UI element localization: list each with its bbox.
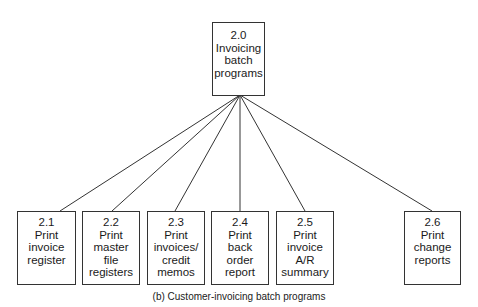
node-label-line: batch <box>213 54 264 67</box>
node-label-line: 2.1 <box>18 216 75 229</box>
node-label-line: report <box>212 266 268 279</box>
node-label-line: change <box>405 241 460 254</box>
node-label-line: Print <box>83 229 139 242</box>
node-label-line: A/R <box>277 254 333 267</box>
node-2-4-print-back-order-report: 2.4 Print back order report <box>211 211 269 285</box>
node-2-2-print-master-file-registers: 2.2 Print master file registers <box>82 211 140 285</box>
node-label-line: memos <box>148 266 204 279</box>
node-2-3-print-invoices-credit-memos: 2.3 Print invoices/ credit memos <box>147 211 205 285</box>
node-label-line: summary <box>277 266 333 279</box>
node-label-line: invoices/ <box>148 241 204 254</box>
node-label-line: 2.5 <box>277 216 333 229</box>
node-label-line: file <box>83 254 139 267</box>
node-2-1-print-invoice-register: 2.1 Print invoice register <box>17 211 76 285</box>
connector-2-1 <box>60 95 240 211</box>
node-label-line: Invoicing <box>213 42 264 55</box>
node-label-line: Print <box>277 229 333 242</box>
node-label-line: credit <box>148 254 204 267</box>
node-label-line: register <box>18 254 75 267</box>
node-label-line: 2.4 <box>212 216 268 229</box>
node-label-line: 2.0 <box>213 29 264 42</box>
connector-2-6 <box>240 95 432 211</box>
node-2-0-invoicing-batch-programs: 2.0 Invoicing batch programs <box>212 22 265 96</box>
connector-2-2 <box>112 95 240 211</box>
node-label-line: Print <box>405 229 460 242</box>
node-label-line: reports <box>405 254 460 267</box>
node-label-line: 2.2 <box>83 216 139 229</box>
node-2-6-print-change-reports: 2.6 Print change reports <box>404 211 461 285</box>
connector-2-5 <box>240 95 305 211</box>
node-label-line: invoice <box>277 241 333 254</box>
node-2-5-print-invoice-ar-summary: 2.5 Print invoice A/R summary <box>276 211 334 285</box>
node-label-line: Print <box>148 229 204 242</box>
node-label-line: programs <box>213 67 264 80</box>
node-label-line: 2.6 <box>405 216 460 229</box>
figure-caption: (b) Customer-invoicing batch programs <box>0 291 478 302</box>
node-label-line: registers <box>83 266 139 279</box>
node-label-line: 2.3 <box>148 216 204 229</box>
node-label-line: Print <box>212 229 268 242</box>
node-label-line: master <box>83 241 139 254</box>
node-label-line: Print <box>18 229 75 242</box>
node-label-line: invoice <box>18 241 75 254</box>
node-label-line: order <box>212 254 268 267</box>
connector-2-3 <box>175 95 240 211</box>
node-label-line: back <box>212 241 268 254</box>
